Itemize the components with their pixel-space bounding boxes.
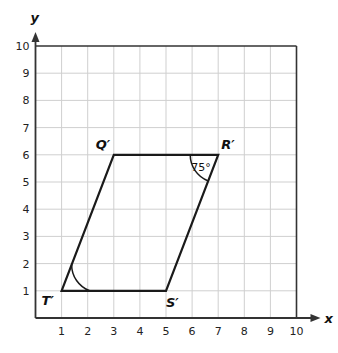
y-tick-label: 7	[23, 122, 30, 135]
y-tick-label: 4	[23, 203, 30, 216]
x-tick-label: 1	[58, 325, 65, 338]
y-tick-label: 3	[23, 230, 30, 243]
vertex-label: R′	[221, 137, 235, 152]
y-tick-label: 1	[23, 285, 30, 298]
x-axis-label: x	[324, 311, 334, 326]
x-tick-label: 5	[163, 325, 170, 338]
x-tick-label: 10	[290, 325, 304, 338]
x-tick-label: 6	[189, 325, 196, 338]
y-axis-arrow-icon	[32, 32, 40, 42]
y-tick-label: 9	[23, 67, 30, 80]
y-tick-label: 6	[23, 149, 30, 162]
y-tick-label: 2	[23, 258, 30, 271]
angle-label-r: 75°	[191, 161, 211, 174]
y-tick-label: 5	[23, 176, 30, 189]
x-tick-label: 3	[110, 325, 117, 338]
y-tick-label: 10	[16, 40, 30, 53]
x-tick-label: 7	[215, 325, 222, 338]
y-tick-label: 8	[23, 94, 30, 107]
vertex-label: T′	[42, 293, 55, 308]
vertex-label: S′	[166, 295, 179, 310]
coordinate-plane: xy 1234567891012345678910 75° Q′R′S′T′	[0, 0, 338, 353]
x-tick-label: 4	[136, 325, 143, 338]
vertex-label: Q′	[96, 137, 111, 152]
y-axis-label: y	[31, 10, 40, 25]
x-tick-label: 9	[267, 325, 274, 338]
x-axis-arrow-icon	[311, 314, 321, 322]
x-tick-label: 8	[241, 325, 248, 338]
angle-arc-t	[72, 265, 90, 291]
tick-labels: 1234567891012345678910	[16, 40, 304, 338]
x-tick-label: 2	[84, 325, 91, 338]
